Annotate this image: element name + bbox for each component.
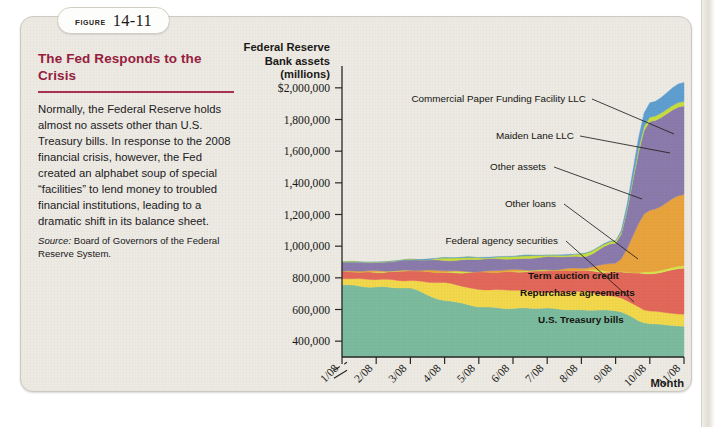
y-axis-title: Federal ReserveBank assets(millions) bbox=[244, 41, 331, 80]
stacked-area-chart: Federal ReserveBank assets(millions) 400… bbox=[234, 39, 692, 391]
x-axis-title: Month bbox=[650, 377, 684, 389]
y-axis-title-line: Federal Reserve bbox=[244, 41, 330, 53]
y-tick-label: 800,000 bbox=[292, 272, 330, 285]
y-tick-label: 400,000 bbox=[292, 335, 330, 348]
x-tick-label: 1/08 bbox=[318, 362, 341, 385]
callout-label: Federal agency securities bbox=[445, 235, 558, 246]
y-axis-ticks: 400,000600,000800,0001,000,0001,200,0001… bbox=[278, 82, 342, 348]
series-inline-label: Term auction credit bbox=[528, 270, 620, 281]
callout-label: Other assets bbox=[490, 161, 546, 172]
caption-block: The Fed Responds to the Crisis Normally,… bbox=[38, 50, 234, 261]
title-divider bbox=[38, 91, 234, 93]
page-edge-shading bbox=[701, 0, 715, 427]
chart-container: Federal ReserveBank assets(millions) 400… bbox=[234, 39, 692, 391]
x-tick-label: 9/08 bbox=[591, 362, 614, 385]
callout-leader-line bbox=[554, 167, 642, 199]
y-tick-label: 1,000,000 bbox=[284, 240, 331, 253]
y-tick-label: $2,000,000 bbox=[278, 82, 330, 95]
x-tick-label: 2/08 bbox=[352, 362, 375, 385]
inline-series-labels: U.S. Treasury billsRepurchase agreements… bbox=[520, 270, 635, 325]
figure-number: 14-11 bbox=[113, 11, 152, 31]
figure-label: FIGURE bbox=[75, 14, 106, 28]
y-axis-title-line: Bank assets bbox=[265, 55, 330, 67]
x-axis-ticks: 1/082/083/084/085/086/087/088/089/0810/0… bbox=[318, 357, 684, 389]
series-inline-label: Repurchase agreements bbox=[520, 287, 635, 298]
y-tick-label: 600,000 bbox=[292, 304, 330, 317]
x-tick-label: 3/08 bbox=[386, 362, 409, 385]
y-axis-title-line: (millions) bbox=[280, 68, 330, 80]
source-note: Source: Board of Governors of the Federa… bbox=[38, 235, 234, 261]
y-tick-label: 1,600,000 bbox=[284, 145, 331, 158]
figure-title: The Fed Responds to the Crisis bbox=[38, 50, 234, 84]
x-tick-label: 10/08 bbox=[621, 362, 648, 389]
x-tick-label: 5/08 bbox=[454, 362, 477, 385]
callout-label: Other loans bbox=[505, 198, 556, 209]
x-axis-title-text: Month bbox=[650, 377, 684, 389]
x-tick-label: 7/08 bbox=[523, 362, 546, 385]
figure-page: FIGURE 14-11 The Fed Responds to the Cri… bbox=[0, 0, 715, 427]
callout-label: Maiden Lane LLC bbox=[496, 130, 574, 141]
y-tick-label: 1,400,000 bbox=[284, 177, 331, 190]
page-edge-line bbox=[701, 0, 702, 427]
caption-body-text: Normally, the Federal Reserve holds almo… bbox=[38, 101, 234, 229]
figure-panel: FIGURE 14-11 The Fed Responds to the Cri… bbox=[20, 16, 692, 392]
y-tick-label: 1,200,000 bbox=[284, 209, 331, 222]
x-tick-label: 8/08 bbox=[557, 362, 580, 385]
source-label: Source: bbox=[38, 235, 71, 246]
x-tick-label: 6/08 bbox=[489, 362, 512, 385]
figure-number-badge: FIGURE 14-11 bbox=[57, 7, 170, 34]
x-tick-label: 4/08 bbox=[420, 362, 443, 385]
y-tick-label: 1,800,000 bbox=[284, 114, 331, 127]
callout-label: Commercial Paper Funding Facility LLC bbox=[411, 93, 586, 104]
chart-areas bbox=[342, 82, 684, 357]
series-inline-label: U.S. Treasury bills bbox=[538, 314, 624, 325]
